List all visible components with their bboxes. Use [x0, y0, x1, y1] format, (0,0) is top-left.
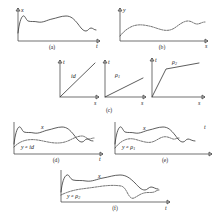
panel-d-dashed-label: y∘id: [20, 144, 35, 150]
panel-f-caption: (f): [112, 205, 118, 212]
panel-e-x-axis-label: t: [204, 124, 206, 130]
panel-c2-line-rho1: [105, 78, 143, 97]
panel-c1-y-axis-label: t: [63, 59, 65, 65]
panel-e-caption: (e): [162, 157, 168, 164]
panel-c3-x-axis-label: s: [198, 100, 201, 106]
panel-f-solid-label: x: [97, 173, 101, 179]
figure-container: x t (a) y s (b) id t s: [0, 0, 219, 213]
panel-a-x-axis-label: t: [96, 43, 98, 49]
panel-c1-line-id: [60, 63, 95, 97]
panel-c2-curve-label: ρ1: [114, 72, 120, 79]
panel-c1-curve-label: id: [71, 73, 77, 79]
panel-c3-y-axis-label: t: [155, 57, 157, 63]
panel-b-curve-y: [120, 21, 205, 36]
panel-f-x-axis-label: t: [165, 205, 167, 211]
panel-a-curve-x: [18, 16, 96, 33]
panel-b: y s (b): [108, 0, 218, 50]
panel-c: id t s ρ1 t s ρ2 t s (c): [0, 55, 219, 115]
panel-d-solid-label: x: [40, 124, 44, 130]
panel-d-caption: (d): [53, 157, 60, 164]
panel-c3-curve-label: ρ2: [171, 59, 177, 66]
panel-c3-line-rho2: [152, 63, 199, 97]
panel-d: x y∘id t (d): [0, 116, 108, 166]
panel-e-dashed-label: y∘ρ1: [121, 144, 135, 151]
panel-c-subplot-rho1: ρ1 t s: [103, 59, 146, 106]
panel-c1-x-axis-label: s: [94, 100, 97, 106]
panel-b-caption: (b): [159, 44, 166, 50]
panel-e-solid-label: x: [142, 125, 146, 131]
panel-b-x-axis-label: s: [205, 43, 208, 49]
panel-e: x y∘ρ1 t (e): [107, 116, 219, 166]
panel-f: x y∘ρ2 t (f): [45, 165, 180, 213]
panel-a-caption: (a): [49, 44, 55, 50]
panel-b-y-axis-label: y: [122, 7, 126, 13]
panel-c-caption: (c): [106, 107, 112, 114]
panel-c-subplot-id: id t s: [58, 59, 99, 106]
panel-d-x-axis-label: t: [99, 156, 101, 162]
panel-c-subplot-rho2: ρ2 t s: [150, 57, 205, 106]
panel-a: x t (a): [0, 0, 105, 50]
panel-f-curve-x: [61, 175, 158, 192]
panel-c2-y-axis-label: t: [108, 59, 110, 65]
panel-d-curve-x: [14, 127, 93, 144]
panel-e-curve-x: [115, 127, 195, 144]
panel-c2-x-axis-label: s: [141, 100, 144, 106]
panel-f-dashed-label: y∘ρ2: [66, 193, 80, 200]
panel-a-y-axis-label: x: [20, 7, 24, 13]
